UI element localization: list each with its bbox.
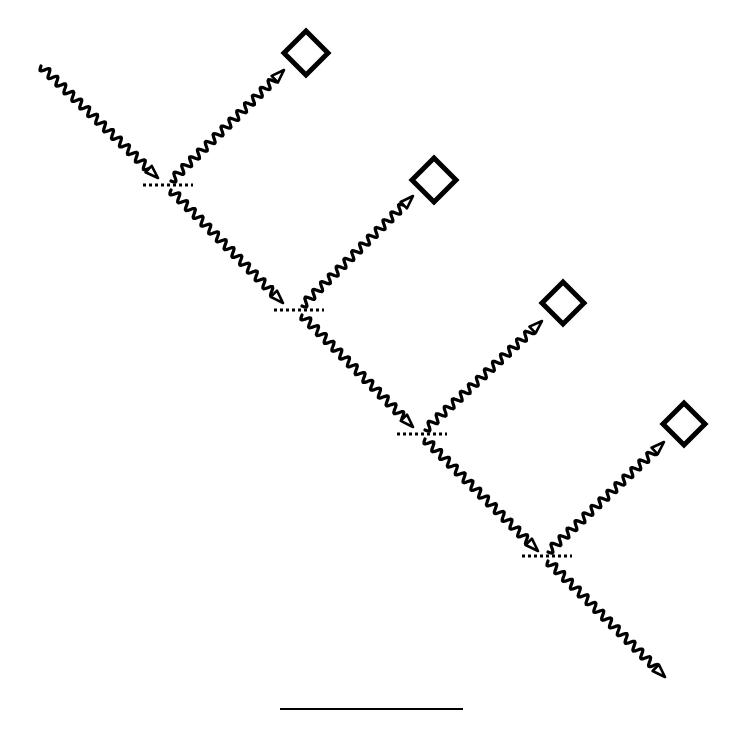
transmitted-beam-2 [301, 315, 413, 427]
wavy-beam-line [171, 80, 278, 182]
input-beam [40, 66, 158, 178]
wavy-beam-line [547, 561, 659, 667]
reflected-beam-2 [302, 196, 413, 307]
transmitted-beam-3 [424, 439, 538, 551]
reflected-beam-4 [548, 442, 664, 553]
reflected-beam-3 [425, 321, 542, 431]
wavy-beam-line [170, 190, 273, 297]
wavy-beam-line [302, 204, 404, 307]
wavy-beam-line [424, 439, 528, 545]
detectors-layer [284, 31, 705, 445]
wavy-beam-line [425, 331, 535, 431]
wavy-beam-line [40, 66, 149, 170]
reflected-beam-1 [171, 70, 284, 182]
detector-diamond-icon-4 [663, 403, 705, 445]
transmitted-beam-1 [170, 190, 283, 303]
wavy-beam-line [548, 452, 657, 553]
detector-diamond-icon-1 [284, 31, 328, 75]
beams-layer [40, 66, 665, 677]
detector-diamond-icon-2 [412, 158, 456, 202]
detector-diamond-icon-3 [542, 282, 584, 324]
arrowhead-icon [652, 442, 665, 454]
beam-splitter-diagram [0, 0, 744, 745]
arrowhead-icon [529, 321, 542, 333]
transmitted-beam-4 [547, 561, 665, 677]
wavy-beam-line [301, 315, 404, 420]
